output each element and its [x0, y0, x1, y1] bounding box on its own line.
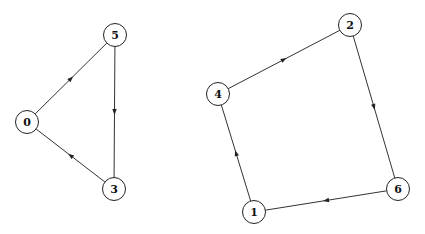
arrowhead-icon — [235, 150, 239, 156]
arrowhead-icon — [280, 58, 286, 63]
nodes-layer: 0532461 — [16, 14, 410, 224]
node-label: 4 — [214, 88, 222, 101]
node-label: 3 — [110, 183, 118, 196]
edge-6-to-1 — [265, 191, 386, 210]
arrowhead-icon — [371, 104, 375, 110]
edge-5-to-3 — [112, 46, 116, 177]
node-label: 1 — [250, 206, 258, 219]
edge-4-to-2 — [228, 30, 340, 88]
arrowhead-icon — [323, 198, 329, 202]
node-label: 0 — [23, 116, 31, 129]
node-5: 5 — [104, 24, 127, 47]
edge-3-to-0 — [36, 129, 105, 182]
node-6: 6 — [387, 178, 410, 201]
directed-graph-canvas: 0532461 — [0, 0, 425, 234]
node-0: 0 — [16, 111, 39, 134]
arrowhead-icon — [112, 109, 116, 115]
edges-layer — [35, 30, 395, 210]
node-2: 2 — [339, 14, 362, 37]
edge-1-to-4 — [221, 105, 250, 201]
node-4: 4 — [207, 83, 230, 106]
node-3: 3 — [103, 178, 126, 201]
node-label: 2 — [346, 19, 354, 32]
edge-2-to-6 — [353, 36, 395, 178]
node-label: 5 — [111, 29, 119, 42]
node-1: 1 — [243, 201, 266, 224]
node-label: 6 — [394, 183, 402, 196]
edge-0-to-5 — [35, 43, 107, 114]
